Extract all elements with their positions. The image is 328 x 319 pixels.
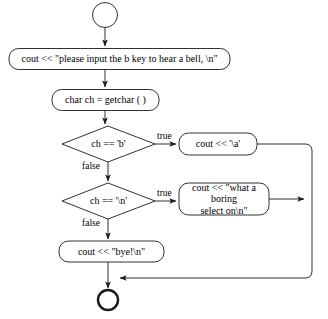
- edge-label-decision-b-false: false: [82, 161, 100, 171]
- decision-ch-equals-newline: [62, 183, 155, 219]
- process-boring: [179, 183, 269, 215]
- edge-bell-to-merge: [257, 144, 312, 186]
- edge-label-decision-b-true: true: [157, 131, 172, 141]
- process-bell: [179, 133, 257, 155]
- process-bye: [59, 241, 164, 262]
- end-node: [98, 290, 118, 310]
- edge-label-decision-n-false: false: [82, 218, 100, 228]
- edge-label-decision-n-true: true: [157, 188, 172, 198]
- process-prompt: [9, 49, 230, 70]
- decision-ch-equals-b: [62, 126, 155, 162]
- flowchart-vector-layer: [0, 0, 328, 319]
- flowchart-canvas: cout << "please input the b key to hear …: [0, 0, 328, 319]
- process-read-char: [52, 90, 159, 111]
- start-node: [93, 3, 118, 28]
